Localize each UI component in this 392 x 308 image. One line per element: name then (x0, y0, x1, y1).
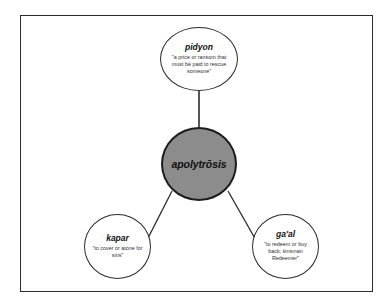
node-kapar-gloss: "to cover or atone for sins" (85, 245, 150, 259)
node-kapar-term: kapar (106, 234, 129, 243)
diagram-canvas: pidyon "a price or ransom that must be p… (0, 0, 392, 308)
node-pidyon[interactable]: pidyon "a price or ransom that must be p… (160, 27, 238, 91)
node-pidyon-gloss: "a price or ransom that must be paid to … (161, 54, 237, 75)
node-gaal-term: ga'al (276, 230, 295, 239)
edge-gaal-to-apolytrosis (228, 191, 257, 242)
node-kapar[interactable]: kapar "to cover or atone for sins" (84, 214, 151, 279)
node-gaal[interactable]: ga'al "to redeem or buy back; kinsman Re… (252, 214, 319, 279)
edge-kapar-to-apolytrosis (146, 191, 172, 242)
node-apolytrosis[interactable]: apolytrōsis (161, 127, 237, 201)
node-pidyon-term: pidyon (185, 43, 213, 52)
node-apolytrosis-term: apolytrōsis (172, 158, 227, 170)
node-gaal-gloss: "to redeem or buy back; kinsman Redeemer… (253, 241, 318, 262)
